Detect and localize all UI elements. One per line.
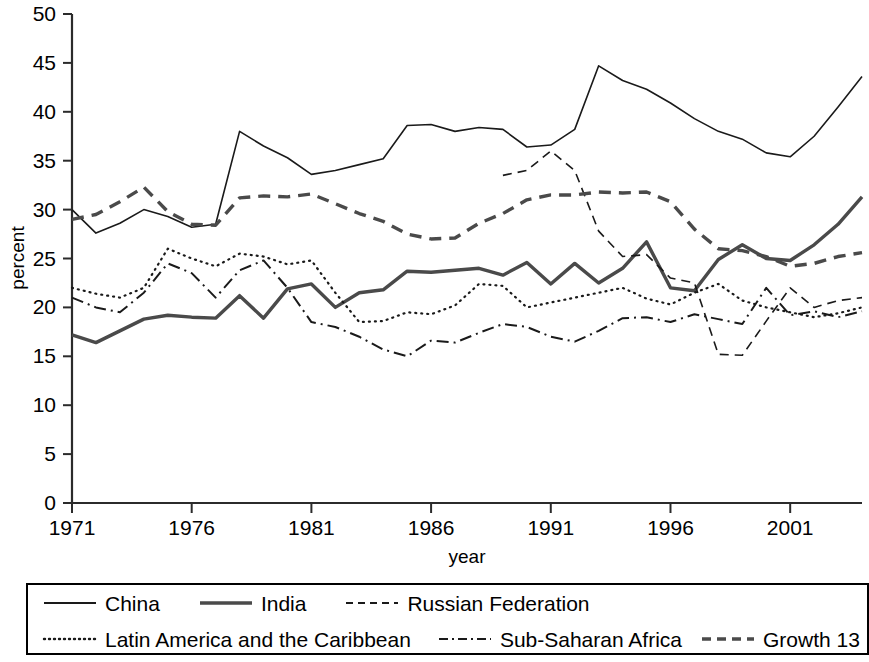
y-tick-label: 20 xyxy=(33,295,56,318)
legend-item-china[interactable]: China xyxy=(42,593,160,614)
legend-item-sub-saharan-africa[interactable]: Sub-Saharan Africa xyxy=(437,629,682,650)
legend-label: Latin America and the Caribbean xyxy=(98,629,411,650)
x-axis-label: year xyxy=(449,546,487,567)
chart-legend: China India Russian Federation Latin Ame… xyxy=(26,583,869,655)
legend-label: India xyxy=(254,593,307,614)
y-axis-ticks xyxy=(63,14,72,503)
x-axis: 1971197619811986199119962001 xyxy=(49,503,862,539)
plot-area: 05101520253035404550 1971197619811986199… xyxy=(0,0,869,570)
legend-row: China India Russian Federation xyxy=(28,585,867,621)
chart-canvas: 05101520253035404550 1971197619811986199… xyxy=(0,0,869,570)
x-axis-ticks xyxy=(72,503,790,513)
legend-swatch-dashed-thin xyxy=(344,596,400,610)
legend-swatch-solid-thick xyxy=(198,596,254,610)
legend-row: Latin America and the Caribbean Sub-Saha… xyxy=(28,621,867,657)
series-line-russian-federation xyxy=(503,151,862,355)
y-tick-label: 25 xyxy=(33,247,56,270)
series-line-latin-america-and-the-caribbean xyxy=(72,249,862,322)
data-series-layer xyxy=(72,66,862,356)
legend-label: Sub-Saharan Africa xyxy=(493,629,682,650)
y-tick-label: 5 xyxy=(44,442,56,465)
x-axis-tick-labels: 1971197619811986199119962001 xyxy=(49,516,814,539)
legend-item-latin-america-and-the-caribbean[interactable]: Latin America and the Caribbean xyxy=(42,629,411,650)
legend-item-india[interactable]: India xyxy=(198,593,307,614)
x-tick-label: 1971 xyxy=(49,516,96,539)
y-tick-label: 0 xyxy=(44,491,56,514)
line-chart: 05101520253035404550 1971197619811986199… xyxy=(0,0,869,662)
legend-item-growth-13[interactable]: Growth 13 xyxy=(700,629,860,650)
y-tick-label: 40 xyxy=(33,100,56,123)
y-tick-label: 45 xyxy=(33,51,56,74)
y-tick-label: 10 xyxy=(33,393,56,416)
y-axis-tick-labels: 05101520253035404550 xyxy=(33,2,56,514)
series-line-sub-saharan-africa xyxy=(72,260,862,356)
legend-swatch-dotted xyxy=(42,632,98,646)
y-tick-label: 15 xyxy=(33,344,56,367)
x-tick-label: 1976 xyxy=(168,516,215,539)
legend-label: Russian Federation xyxy=(400,593,589,614)
series-line-china xyxy=(72,66,862,233)
legend-item-russian-federation[interactable]: Russian Federation xyxy=(344,593,589,614)
legend-label: Growth 13 xyxy=(756,629,860,650)
x-tick-label: 2001 xyxy=(767,516,814,539)
x-tick-label: 1991 xyxy=(527,516,574,539)
legend-swatch-dashed-thick xyxy=(700,632,756,646)
x-tick-label: 1981 xyxy=(288,516,335,539)
y-tick-label: 35 xyxy=(33,149,56,172)
y-tick-label: 30 xyxy=(33,198,56,221)
legend-swatch-solid-thin xyxy=(42,596,98,610)
y-axis: 05101520253035404550 xyxy=(33,2,72,514)
y-tick-label: 50 xyxy=(33,2,56,25)
legend-swatch-dashdot xyxy=(437,632,493,646)
x-tick-label: 1996 xyxy=(647,516,694,539)
legend-label: China xyxy=(98,593,160,614)
x-tick-label: 1986 xyxy=(408,516,455,539)
y-axis-label: percent xyxy=(7,226,28,290)
